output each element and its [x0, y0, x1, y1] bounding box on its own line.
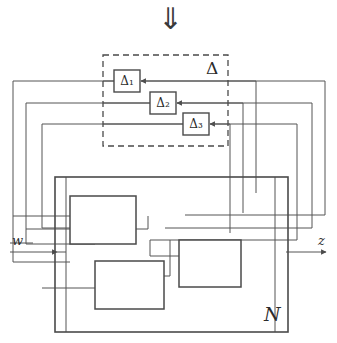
delta-2-label: Δ₂	[156, 97, 169, 109]
wire-plant-to-delta3	[210, 124, 230, 233]
rail-right-1	[185, 81, 325, 215]
subsystem-3	[95, 261, 164, 309]
wiring-group	[10, 81, 326, 332]
subsystem-2	[179, 240, 241, 287]
wire-subsystem-3-out	[164, 240, 170, 276]
input-signal-w-label: w	[12, 234, 23, 247]
plant-block-label: N	[264, 305, 281, 324]
uncertainty-block-label: Δ	[206, 60, 218, 77]
blocks-group	[55, 55, 288, 332]
figure-canvas: ⇓ Δ N w z Δ₁ Δ₂ Δ₃	[0, 0, 337, 343]
output-signal-z-label: z	[318, 234, 325, 247]
subsystem-1	[70, 196, 136, 244]
delta-1-label: Δ₁	[120, 75, 133, 87]
delta-3-label: Δ₃	[189, 118, 202, 130]
lft-block-diagram	[0, 0, 337, 343]
